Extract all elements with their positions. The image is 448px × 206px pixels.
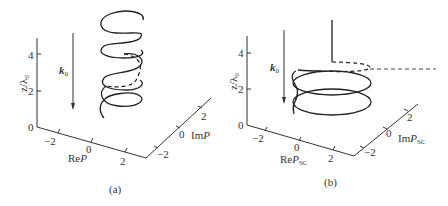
re-tick-0: 0: [294, 141, 300, 153]
re-tick-2: 2: [328, 152, 334, 164]
z-axis-label: z/λ₀: [227, 73, 239, 90]
im-axis-label: ImP: [191, 129, 210, 141]
helix-dashed-segment: [106, 54, 140, 87]
k0-label: k0: [59, 64, 69, 78]
im-axis-label: ImPSC: [398, 132, 426, 146]
re-axis-label: ReP: [68, 152, 87, 164]
figure: 4 2 0 z/λ₀ −2 0 2 ReP −2 0 2 ImP k0 (a: [0, 0, 448, 206]
im-tick-2: 2: [407, 111, 413, 123]
k0-label: k0: [270, 61, 280, 75]
im-tick-2: 2: [201, 110, 207, 122]
z-tick-0: 0: [28, 121, 34, 133]
im-tick-neg2: −2: [157, 148, 169, 160]
re-tick-neg2: −2: [44, 135, 56, 147]
ellipse-curves: [292, 70, 371, 115]
panel-a: 4 2 0 z/λ₀ −2 0 2 ReP −2 0 2 ImP k0 (a: [17, 11, 211, 196]
re-tick-neg2: −2: [252, 132, 264, 144]
im-tick-neg2: −2: [364, 146, 376, 158]
z-tick-0: 0: [238, 119, 244, 131]
re-tick-2: 2: [120, 155, 126, 167]
z-axis-label: z/λ₀: [17, 75, 29, 92]
im-tick-0: 0: [386, 127, 392, 139]
dashed-curve: [316, 62, 370, 72]
re-axis-label: RePSC: [280, 153, 308, 167]
caption-a: (a): [109, 183, 122, 196]
helix-curve: [100, 11, 143, 118]
panel-b: 4 2 0 z/λ₀ −2 0 2 RePSC −2 0 2 ImPSC k0: [227, 20, 436, 189]
z-tick-4: 4: [28, 49, 34, 61]
caption-b: (b): [324, 176, 337, 189]
z-tick-4: 4: [238, 47, 244, 59]
im-tick-0: 0: [179, 128, 185, 140]
